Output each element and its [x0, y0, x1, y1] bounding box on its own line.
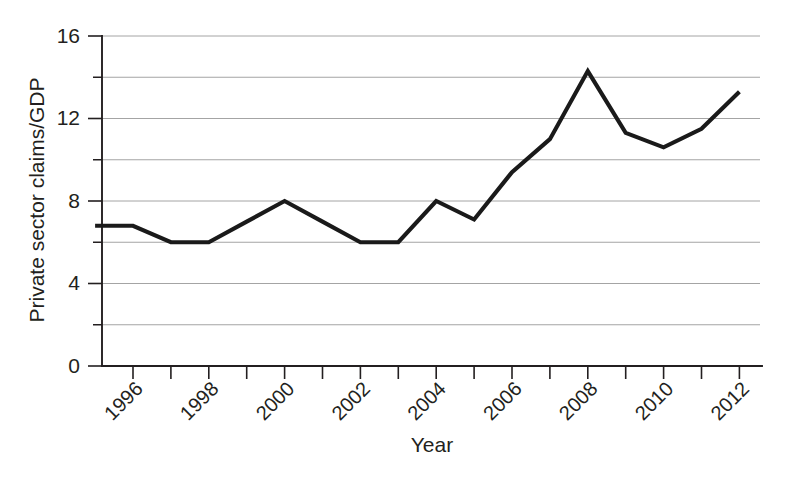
y-tick-label-4: 4: [68, 271, 80, 294]
y-tick-label-0: 0: [68, 354, 80, 377]
x-axis-title: Year: [411, 433, 453, 456]
y-axis-title: Private sector claims/GDP: [25, 77, 48, 322]
y-tick-label-12: 12: [57, 106, 80, 129]
line-chart-figure: 0481216 19961998200020022004200620082010…: [0, 0, 791, 484]
y-tick-label-8: 8: [68, 189, 80, 212]
y-tick-label-16: 16: [57, 24, 80, 47]
